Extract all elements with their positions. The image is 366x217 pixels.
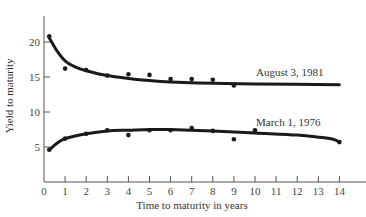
x-tick-label: 1 <box>62 185 68 197</box>
x-tick-label: 12 <box>292 185 303 197</box>
data-point <box>189 77 194 82</box>
x-tick-label: 13 <box>313 185 325 197</box>
x-tick-label: 7 <box>189 185 195 197</box>
data-point <box>84 131 89 136</box>
x-tick-label: 5 <box>147 185 153 197</box>
x-tick-label: 9 <box>231 185 237 197</box>
x-tick-label: 8 <box>210 185 216 197</box>
x-axis-title: Time to maturity in years <box>136 199 247 211</box>
data-point <box>211 78 216 83</box>
y-tick-label: 15 <box>29 71 41 83</box>
series-label-august-1981: August 3, 1981 <box>256 66 324 78</box>
axes: 012345678910111213145101520 <box>29 16 366 197</box>
data-point <box>105 128 110 133</box>
x-tick-label: 4 <box>126 185 132 197</box>
y-tick-label: 20 <box>29 36 41 48</box>
data-point <box>47 148 52 153</box>
x-tick-label: 3 <box>105 185 111 197</box>
data-point <box>105 73 110 78</box>
y-tick-label: 10 <box>29 106 41 118</box>
x-tick-label: 2 <box>83 185 89 197</box>
data-point <box>126 133 131 138</box>
fit-curve-march-1976 <box>49 129 339 149</box>
x-tick-label: 10 <box>250 185 262 197</box>
data-point <box>168 77 173 82</box>
x-tick-label: 11 <box>271 185 282 197</box>
data-point <box>63 136 68 141</box>
x-tick-label: 14 <box>334 185 346 197</box>
data-point <box>232 83 237 88</box>
data-point <box>47 34 52 39</box>
data-point <box>147 128 152 133</box>
data-point <box>211 129 216 134</box>
data-point <box>232 137 237 142</box>
y-tick-label: 5 <box>35 141 41 153</box>
x-tick-label: 6 <box>168 185 174 197</box>
fit-curves <box>49 38 339 150</box>
yield-curve-chart: 012345678910111213145101520 August 3, 19… <box>0 0 366 217</box>
data-point <box>168 128 173 133</box>
data-point <box>189 126 194 131</box>
data-point <box>147 73 152 78</box>
x-tick-label: 0 <box>41 185 47 197</box>
y-axis-title: Yield to maturity <box>3 58 15 134</box>
data-point <box>253 128 258 133</box>
series-label-march-1976: March 1, 1976 <box>256 116 321 128</box>
data-point <box>84 68 89 73</box>
data-point <box>337 140 342 145</box>
data-point <box>63 66 68 71</box>
data-point <box>126 72 131 77</box>
